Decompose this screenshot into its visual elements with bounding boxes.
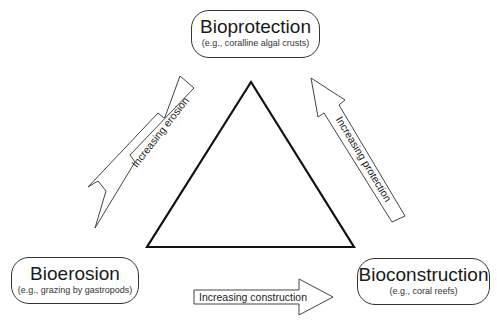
bioerosion-example: (e.g., grazing by gastropods) [12,285,138,296]
construction-arrow-label: Increasing construction [199,291,299,303]
bioconstruction-title: Bioconstruction [358,264,489,286]
bioprotection-example: (e.g., coralline algal crusts) [192,38,319,49]
bioconstruction-example: (e.g., coral reefs) [358,286,489,297]
bioprotection-node: Bioprotection (e.g., coralline algal cru… [191,10,320,58]
bioerosion-node: Bioerosion (e.g., grazing by gastropods) [11,257,139,304]
bioconstruction-node: Bioconstruction (e.g., coral reefs) [357,258,490,305]
bioprotection-title: Bioprotection [192,16,319,38]
bioerosion-title: Bioerosion [12,263,138,285]
